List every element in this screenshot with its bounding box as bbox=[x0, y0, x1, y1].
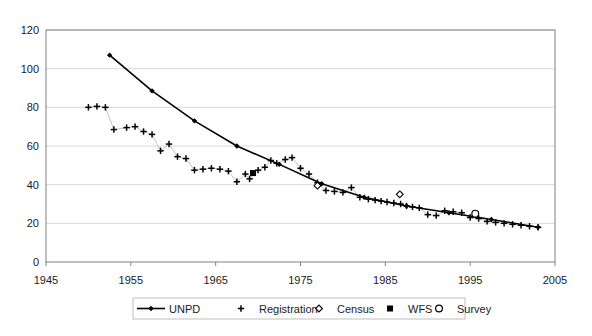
chart-figure: 020406080100120 194519551965197519851995… bbox=[0, 0, 592, 336]
legend-label-census: Census bbox=[337, 303, 375, 315]
y-tick-label-0: 0 bbox=[33, 256, 39, 268]
y-tick-label-60: 60 bbox=[27, 140, 39, 152]
x-tick-label-1945: 1945 bbox=[34, 274, 58, 286]
x-tick-label-1965: 1965 bbox=[203, 274, 227, 286]
legend-wfs-filled-square-marker bbox=[387, 306, 393, 312]
y-tick-label-80: 80 bbox=[27, 101, 39, 113]
legend-label-wfs: WFS bbox=[408, 303, 432, 315]
series-survey bbox=[472, 210, 479, 217]
y-tick-label-100: 100 bbox=[21, 63, 39, 75]
x-tick-label-1995: 1995 bbox=[458, 274, 482, 286]
legend-survey-open-circle-marker bbox=[436, 305, 443, 312]
legend-label-survey: Survey bbox=[457, 303, 492, 315]
y-tick-label-20: 20 bbox=[27, 217, 39, 229]
x-tick-label-1985: 1985 bbox=[373, 274, 397, 286]
series-wfs bbox=[250, 170, 256, 176]
x-tick-label-1955: 1955 bbox=[119, 274, 143, 286]
chart-legend: UNPDRegistrationCensusWFSSurvey bbox=[133, 298, 492, 319]
y-tick-label-40: 40 bbox=[27, 179, 39, 191]
wfs-point-filled-square-marker bbox=[250, 170, 256, 176]
survey-point-open-circle-marker bbox=[472, 210, 479, 217]
chart-container: 020406080100120 194519551965197519851995… bbox=[0, 0, 592, 336]
y-tick-label-120: 120 bbox=[21, 24, 39, 36]
x-tick-label-1975: 1975 bbox=[288, 274, 312, 286]
x-tick-label-2005: 2005 bbox=[543, 274, 567, 286]
legend-label-registration: Registration bbox=[259, 303, 318, 315]
legend-label-unpd: UNPD bbox=[169, 303, 200, 315]
